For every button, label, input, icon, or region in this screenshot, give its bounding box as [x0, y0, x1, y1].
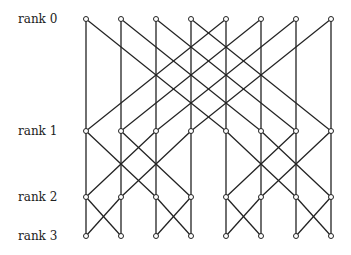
- node-rank2-2: [154, 195, 159, 200]
- node-rank2-3: [189, 195, 194, 200]
- node-rank3-2: [154, 234, 159, 239]
- node-rank0-7: [329, 17, 334, 22]
- node-rank1-4: [224, 129, 229, 134]
- node-rank0-6: [294, 17, 299, 22]
- node-rank0-5: [259, 17, 264, 22]
- rank-label-1: rank 1: [18, 124, 57, 138]
- node-rank0-4: [224, 17, 229, 22]
- node-rank2-4: [224, 195, 229, 200]
- node-rank1-1: [119, 129, 124, 134]
- rank-labels: rank 0 rank 1 rank 2 rank 3: [18, 12, 57, 243]
- node-rank1-2: [154, 129, 159, 134]
- node-rank3-3: [189, 234, 194, 239]
- node-rank1-3: [189, 129, 194, 134]
- node-rank2-6: [294, 195, 299, 200]
- rank-label-2: rank 2: [18, 190, 57, 204]
- node-rank0-2: [154, 17, 159, 22]
- node-rank3-0: [84, 234, 89, 239]
- node-rank0-3: [189, 17, 194, 22]
- node-rank0-0: [84, 17, 89, 22]
- node-rank1-7: [329, 129, 334, 134]
- butterfly-network-diagram: rank 0 rank 1 rank 2 rank 3: [0, 0, 351, 255]
- node-rank3-6: [294, 234, 299, 239]
- node-rank3-5: [259, 234, 264, 239]
- node-rank3-4: [224, 234, 229, 239]
- node-rank2-0: [84, 195, 89, 200]
- rank-label-0: rank 0: [18, 12, 57, 26]
- node-rank2-7: [329, 195, 334, 200]
- node-rank2-5: [259, 195, 264, 200]
- node-rank1-5: [259, 129, 264, 134]
- node-rank3-7: [329, 234, 334, 239]
- node-rank2-1: [119, 195, 124, 200]
- node-rank1-0: [84, 129, 89, 134]
- edges: [86, 19, 331, 236]
- node-rank3-1: [119, 234, 124, 239]
- rank-label-3: rank 3: [18, 229, 57, 243]
- node-rank0-1: [119, 17, 124, 22]
- node-rank1-6: [294, 129, 299, 134]
